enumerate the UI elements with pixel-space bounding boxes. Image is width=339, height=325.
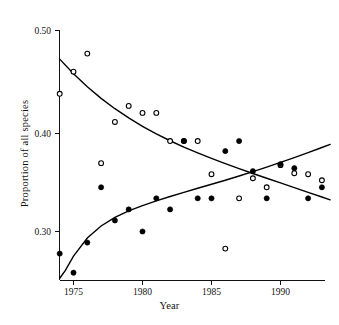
- data-point-filled-circles: [85, 240, 90, 245]
- data-point-open-circles: [57, 91, 62, 96]
- data-point-open-circles: [237, 196, 242, 201]
- scatter-plot: 0.50 0.40 0.30 1975 1980 1985 1990: [0, 0, 339, 325]
- data-point-filled-circles: [209, 196, 214, 201]
- x-axis-ticks: 1975 1980 1985 1990: [64, 281, 290, 298]
- data-point-filled-circles: [319, 185, 324, 190]
- x-ticklabel-1975: 1975: [64, 287, 83, 297]
- data-point-open-circles: [168, 139, 173, 144]
- data-point-filled-circles: [237, 138, 242, 143]
- data-point-filled-circles: [71, 270, 76, 275]
- data-point-filled-circles: [112, 218, 117, 223]
- y-axis-ticks: 0.50 0.40 0.30: [34, 26, 59, 237]
- plot-axes: [60, 30, 326, 281]
- data-point-filled-circles: [223, 149, 228, 154]
- fitted-curves-layer: [60, 59, 330, 278]
- x-ticklabel-1990: 1990: [271, 287, 290, 297]
- data-point-open-circles: [195, 139, 200, 144]
- data-point-open-circles: [292, 171, 297, 176]
- data-point-filled-circles: [278, 162, 283, 167]
- data-point-filled-circles: [292, 166, 297, 171]
- x-ticklabel-1980: 1980: [133, 287, 152, 297]
- data-point-open-circles: [140, 111, 145, 116]
- data-point-open-circles: [113, 120, 118, 125]
- data-point-open-circles: [209, 172, 214, 177]
- data-point-filled-circles: [168, 207, 173, 212]
- data-point-open-circles: [320, 178, 325, 183]
- data-point-open-circles: [99, 161, 104, 166]
- data-point-open-circles: [71, 69, 76, 74]
- data-point-open-circles: [251, 176, 256, 181]
- data-point-filled-circles: [140, 229, 145, 234]
- y-ticklabel-030: 0.30: [34, 227, 51, 237]
- data-point-filled-circles: [264, 196, 269, 201]
- data-point-filled-circles: [181, 138, 186, 143]
- data-point-filled-circles: [57, 251, 62, 256]
- data-point-filled-circles: [99, 185, 104, 190]
- figure-container: 0.50 0.40 0.30 1975 1980 1985 1990 Propo…: [0, 0, 339, 325]
- y-axis-title: Proportion of all species: [19, 84, 30, 224]
- data-point-filled-circles: [126, 207, 131, 212]
- data-point-filled-circles: [195, 196, 200, 201]
- fitted-curve-declining-fit: [60, 59, 330, 200]
- data-point-filled-circles: [154, 196, 159, 201]
- data-point-open-circles: [306, 172, 311, 177]
- data-point-open-circles: [264, 185, 269, 190]
- x-axis-title: Year: [0, 300, 339, 311]
- data-point-filled-circles: [306, 196, 311, 201]
- data-point-open-circles: [223, 246, 228, 251]
- data-point-filled-circles: [250, 169, 255, 174]
- y-ticklabel-050: 0.50: [34, 26, 51, 36]
- data-point-open-circles: [154, 111, 159, 116]
- data-point-open-circles: [126, 103, 131, 108]
- data-point-open-circles: [85, 51, 90, 56]
- data-points-layer: [57, 51, 324, 275]
- x-ticklabel-1985: 1985: [202, 287, 221, 297]
- y-ticklabel-040: 0.40: [34, 129, 51, 139]
